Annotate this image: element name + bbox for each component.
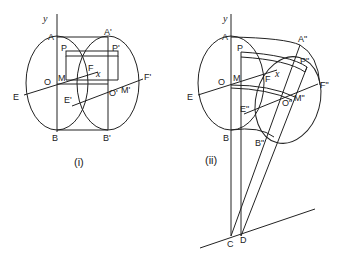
label-A-ii: A bbox=[222, 32, 228, 42]
label-B-i: B bbox=[52, 133, 58, 143]
label-P-dprime-ii: P" bbox=[300, 56, 309, 66]
label-y-ii: y bbox=[222, 13, 228, 24]
label-C-ii: C bbox=[227, 239, 234, 249]
label-O-i: O bbox=[44, 77, 51, 87]
label-M-prime-i: M' bbox=[121, 85, 130, 95]
label-M-i: M bbox=[58, 73, 66, 83]
label-B-prime-i: B' bbox=[103, 133, 111, 143]
caption-i: (i) bbox=[74, 156, 84, 168]
caption-ii: (ii) bbox=[205, 154, 217, 166]
label-P-prime-i: P' bbox=[112, 43, 120, 53]
label-B-ii: B bbox=[223, 133, 229, 143]
label-O-prime-i: O' bbox=[109, 88, 118, 98]
label-x-i: x bbox=[95, 68, 101, 79]
label-F-prime-i: F' bbox=[144, 72, 151, 82]
label-F-ii: F bbox=[265, 74, 271, 84]
label-F-dprime-ii: F" bbox=[320, 80, 329, 90]
label-A-prime-i: A' bbox=[104, 27, 112, 37]
label-M-ii: M bbox=[233, 73, 241, 83]
label-P-i: P bbox=[61, 43, 67, 53]
label-P-ii: P bbox=[237, 43, 243, 53]
figure-ii: y A A" P P" O M F x F" E E" O" M" B B" C… bbox=[187, 13, 330, 249]
label-F-i: F bbox=[88, 63, 94, 73]
bar-PP-i bbox=[66, 51, 118, 56]
diagram-canvas: y A A' P P' O M F x F' E E' O' M' B B' (… bbox=[0, 0, 343, 257]
label-D-ii: D bbox=[240, 235, 247, 245]
label-E-i: E bbox=[13, 92, 19, 102]
label-B-dprime-ii: B" bbox=[255, 138, 264, 148]
ground-line-ii bbox=[200, 209, 315, 248]
label-A-i: A bbox=[48, 32, 54, 42]
label-y-i: y bbox=[42, 13, 48, 24]
label-x-ii: x bbox=[274, 68, 280, 79]
label-E-dprime-ii: E" bbox=[240, 104, 249, 114]
label-E-prime-i: E' bbox=[64, 95, 72, 105]
label-M-dprime-ii: M" bbox=[294, 93, 305, 103]
label-A-dprime-ii: A" bbox=[298, 34, 307, 44]
label-O-dprime-ii: O" bbox=[282, 98, 292, 108]
label-O-ii: O bbox=[218, 77, 225, 87]
figure-i: y A A' P P' O M F x F' E E' O' M' B B' (… bbox=[13, 13, 151, 168]
label-E-ii: E bbox=[187, 92, 193, 102]
